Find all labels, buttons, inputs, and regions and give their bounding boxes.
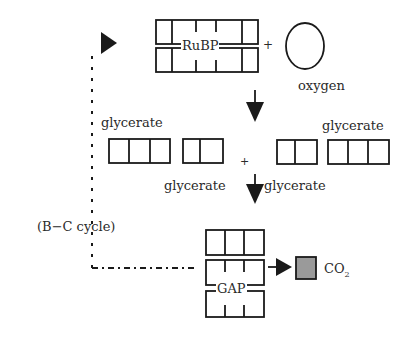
cycle-label: (B−C cycle) <box>37 219 115 234</box>
glycerate-3c-left <box>109 139 170 163</box>
arrow-down-icon <box>246 102 264 122</box>
co2-subscript: 2 <box>345 270 350 279</box>
glycerate-label-right-top: glycerate <box>322 118 384 133</box>
rubp-label: RuBP <box>181 38 219 53</box>
plus-sign: + <box>263 38 273 52</box>
glycerate-2c-left <box>183 139 223 163</box>
co2-molecule <box>296 257 316 279</box>
oxygen-label: oxygen <box>298 78 345 93</box>
arrow-down-icon <box>246 184 264 204</box>
glycerate-2c-right <box>277 140 317 164</box>
glycerate-label-right-bottom: glycerate <box>264 178 326 193</box>
arrow-to-rubp-icon <box>101 32 117 54</box>
glycerate-label-left-bottom: glycerate <box>164 178 226 193</box>
glycerate-label-left-top: glycerate <box>101 115 163 130</box>
co2-label: CO2 <box>324 261 350 279</box>
glycerate-3c-right <box>328 140 389 164</box>
arrow-right-icon <box>276 258 292 276</box>
co2-text: CO <box>324 261 345 276</box>
gap-label: GAP <box>216 281 247 296</box>
gap-molecule <box>206 230 264 317</box>
oxygen-molecule <box>286 23 324 69</box>
plus-sign: + <box>240 155 249 168</box>
